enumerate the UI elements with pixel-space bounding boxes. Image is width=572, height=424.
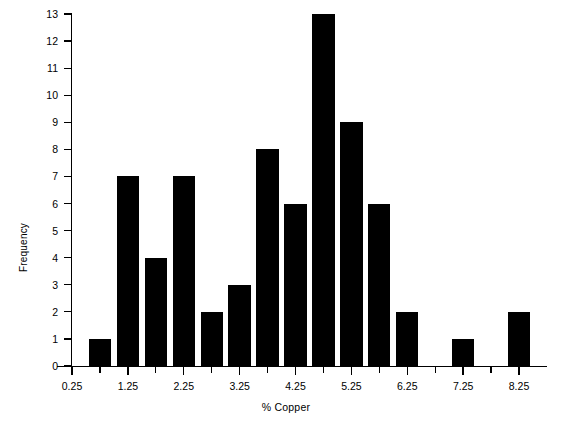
y-tick-mark	[64, 68, 72, 69]
x-tick-label: 5.25	[321, 380, 381, 392]
x-minor-tick-mark	[211, 367, 212, 373]
y-tick-mark	[64, 338, 72, 339]
y-tick-label: 1	[18, 334, 58, 344]
x-tick-mark	[183, 367, 184, 375]
y-tick-mark	[64, 230, 72, 231]
y-tick-mark	[64, 149, 72, 150]
histogram-bar	[452, 339, 474, 366]
y-tick-label: 6	[18, 199, 58, 209]
histogram-bar	[228, 285, 250, 366]
histogram-bar	[256, 149, 278, 366]
y-tick-mark	[64, 122, 72, 123]
histogram-bar	[89, 339, 111, 366]
x-tick-mark	[295, 367, 296, 375]
histogram-bar	[145, 258, 167, 366]
histogram-bar	[173, 176, 195, 366]
x-tick-label: 0.25	[42, 380, 102, 392]
y-tick-mark	[64, 40, 72, 41]
y-tick-label: 12	[18, 36, 58, 46]
histogram-bar	[508, 312, 530, 366]
histogram-bar	[117, 176, 139, 366]
x-axis-title: % Copper	[0, 401, 572, 413]
x-tick-mark	[462, 367, 463, 375]
y-tick-mark	[64, 203, 72, 204]
y-tick-label: 11	[18, 63, 58, 73]
y-tick-label: 8	[18, 144, 58, 154]
histogram-chart: Frequency 012345678910111213 0.251.252.2…	[0, 0, 572, 424]
x-minor-tick-mark	[155, 367, 156, 373]
x-tick-label: 7.25	[433, 380, 493, 392]
y-tick-label: 0	[18, 361, 58, 371]
y-tick-label: 13	[18, 9, 58, 19]
y-tick-label: 10	[18, 90, 58, 100]
x-tick-label: 8.25	[489, 380, 549, 392]
y-tick-mark	[64, 257, 72, 258]
histogram-bar	[312, 14, 334, 366]
y-tick-label: 4	[18, 253, 58, 263]
x-minor-tick-mark	[99, 367, 100, 373]
y-tick-mark	[64, 95, 72, 96]
y-tick-label: 2	[18, 307, 58, 317]
x-tick-label: 3.25	[210, 380, 270, 392]
y-tick-label: 7	[18, 171, 58, 181]
y-tick-mark	[64, 13, 72, 14]
x-minor-tick-mark	[490, 367, 491, 373]
x-tick-mark	[518, 367, 519, 375]
x-tick-label: 4.25	[266, 380, 326, 392]
y-axis-line	[71, 13, 72, 367]
x-minor-tick-mark	[435, 367, 436, 373]
x-minor-tick-mark	[267, 367, 268, 373]
x-minor-tick-mark	[323, 367, 324, 373]
x-minor-tick-mark	[379, 367, 380, 373]
x-tick-mark	[71, 367, 72, 375]
y-tick-label: 5	[18, 226, 58, 236]
histogram-bar	[340, 122, 362, 366]
histogram-bar	[284, 204, 306, 366]
plot-area: 012345678910111213 0.251.252.253.254.255…	[0, 0, 572, 424]
x-tick-label: 2.25	[154, 380, 214, 392]
x-tick-label: 1.25	[98, 380, 158, 392]
y-tick-label: 3	[18, 280, 58, 290]
y-tick-mark	[64, 176, 72, 177]
x-tick-mark	[239, 367, 240, 375]
y-tick-label: 9	[18, 117, 58, 127]
x-tick-mark	[407, 367, 408, 375]
histogram-bar	[396, 312, 418, 366]
y-tick-mark	[64, 311, 72, 312]
y-tick-mark	[64, 284, 72, 285]
x-tick-label: 6.25	[377, 380, 437, 392]
x-tick-mark	[127, 367, 128, 375]
histogram-bar	[368, 204, 390, 366]
x-axis-line	[57, 366, 547, 367]
histogram-bar	[201, 312, 223, 366]
x-tick-mark	[351, 367, 352, 375]
